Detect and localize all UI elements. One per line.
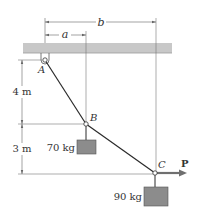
dimension-label-3m: 3 m xyxy=(12,143,32,154)
point-label-a: A xyxy=(37,64,45,75)
arrowhead xyxy=(45,21,49,23)
force-p-arrowhead xyxy=(179,170,187,177)
pin-b xyxy=(84,122,88,126)
cable-ab xyxy=(45,60,86,124)
ceiling xyxy=(23,43,172,53)
force-label-p: P xyxy=(181,158,189,169)
arrowhead xyxy=(45,34,49,36)
arrowhead xyxy=(21,120,23,124)
cable-diagram: b a A 4 m 3 m 70 kg B P 90 kg C xyxy=(0,0,199,213)
dimension-label-b: b xyxy=(97,16,104,29)
arrowhead xyxy=(21,170,23,174)
arrowhead xyxy=(21,124,23,128)
dimension-label-4m: 4 m xyxy=(12,86,32,97)
point-label-c: C xyxy=(158,159,166,170)
cable-bc xyxy=(86,124,155,173)
dimension-label-a: a xyxy=(62,28,69,41)
pin-a xyxy=(43,58,47,62)
mass-label-b: 70 kg xyxy=(47,142,76,153)
pin-c xyxy=(153,171,157,175)
point-label-b: B xyxy=(89,112,97,123)
mass-label-c: 90 kg xyxy=(114,191,143,202)
arrowhead xyxy=(21,60,23,64)
block-90kg xyxy=(144,187,168,206)
arrowhead xyxy=(152,21,156,23)
block-70kg xyxy=(77,140,96,154)
arrowhead xyxy=(82,34,86,36)
